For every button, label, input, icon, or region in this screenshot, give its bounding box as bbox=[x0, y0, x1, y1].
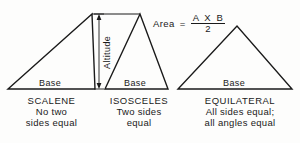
altitude-label: Altitude bbox=[103, 35, 112, 70]
area-formula-denominator: 2 bbox=[205, 24, 211, 34]
scalene-description-line-1: No two bbox=[0, 106, 103, 117]
equilateral-base-label: Base bbox=[221, 78, 247, 88]
altitude-arrow-down bbox=[97, 83, 102, 89]
scalene-base-label: Base bbox=[37, 78, 63, 88]
triangle-types-diagram: Altitude Area = A X B 2 Base Base Base S… bbox=[0, 0, 300, 143]
isosceles-base-label: Base bbox=[122, 78, 148, 88]
scalene-name: SCALENE bbox=[0, 95, 103, 106]
area-formula-fraction: A X B 2 bbox=[191, 13, 226, 34]
equilateral-description-line-1: All sides equal; bbox=[180, 106, 300, 117]
area-formula-equals: = bbox=[180, 18, 186, 29]
equilateral-description-line-2: all angles equal bbox=[180, 117, 300, 128]
isosceles-description-line-2: equal bbox=[100, 117, 178, 128]
area-formula: Area = A X B 2 bbox=[153, 13, 225, 34]
isosceles-name: ISOSCELES bbox=[100, 95, 178, 106]
altitude-arrow-up bbox=[97, 14, 102, 20]
equilateral-caption: EQUILATERAL All sides equal; all angles … bbox=[180, 95, 300, 128]
isosceles-description-line-1: Two sides bbox=[100, 106, 178, 117]
scalene-caption: SCALENE No two sides equal bbox=[0, 95, 103, 128]
isosceles-caption: ISOSCELES Two sides equal bbox=[100, 95, 178, 128]
area-formula-numerator: A X B bbox=[191, 13, 226, 23]
area-formula-word: Area bbox=[153, 18, 175, 29]
equilateral-name: EQUILATERAL bbox=[180, 95, 300, 106]
scalene-description-line-2: sides equal bbox=[0, 117, 103, 128]
